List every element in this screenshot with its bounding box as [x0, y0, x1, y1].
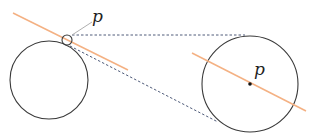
- point-dot: [248, 82, 252, 86]
- left-circle: [10, 41, 88, 119]
- magnification-diagram: p p: [0, 0, 310, 137]
- point-label-small: p: [92, 6, 103, 26]
- dashed-connector-bottom: [70, 46, 218, 122]
- left-tangent-line: [13, 13, 128, 70]
- point-label-magnified: p: [254, 59, 265, 79]
- right-tangent-line: [192, 53, 306, 111]
- leader-line: [72, 22, 92, 35]
- diagram-canvas: p p: [0, 0, 310, 137]
